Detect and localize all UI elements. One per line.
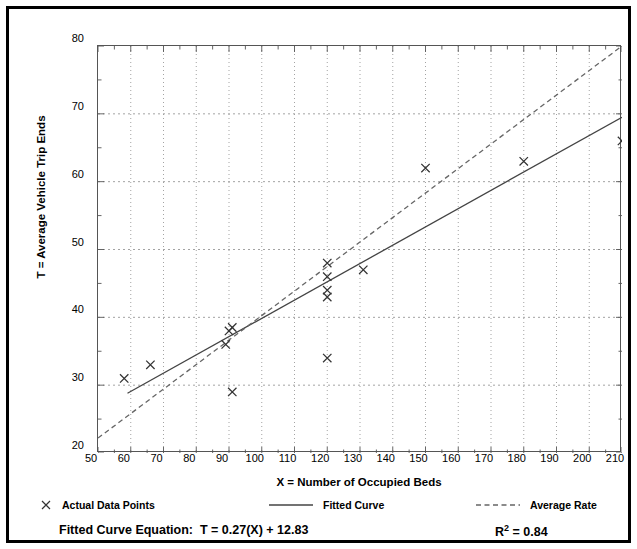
data-point-marker — [359, 266, 367, 274]
y-tick-label: 50 — [44, 237, 84, 248]
x-marker-icon — [39, 498, 53, 512]
data-point-marker — [323, 286, 331, 294]
legend-label-actual-data-points: Actual Data Points — [62, 499, 155, 511]
data-point-marker — [228, 388, 236, 396]
data-point-marker — [120, 374, 128, 382]
legend-item-average-rate: Average Rate — [475, 495, 597, 515]
chart-footer: Fitted Curve Equation: T = 0.27(X) + 12.… — [23, 523, 631, 547]
chart-screenshot: Plot T = Average Vehicle Trip Ends 20304… — [0, 0, 637, 549]
legend-item-actual-data-points: Actual Data Points — [39, 495, 155, 515]
data-point-marker — [228, 323, 236, 331]
y-tick-label: 20 — [44, 440, 84, 451]
legend-label-average-rate: Average Rate — [530, 499, 597, 511]
y-tick-label: 30 — [44, 372, 84, 383]
r-squared-number: = 0.84 — [513, 525, 548, 539]
plot-canvas — [98, 46, 622, 453]
equation-label: Fitted Curve Equation: — [59, 523, 193, 537]
x-axis-title: X = Number of Occupied Beds — [97, 476, 621, 488]
y-tick-label: 80 — [44, 33, 84, 44]
data-point-marker — [421, 164, 429, 172]
trend-lines — [98, 46, 622, 438]
grid-lines — [98, 46, 622, 453]
cut-off-title-fragment: Plot — [0, 0, 637, 5]
dashed-line-icon — [475, 498, 521, 512]
equation-value: T = 0.27(X) + 12.83 — [200, 523, 308, 537]
average-rate-line — [98, 46, 622, 438]
cut-off-title-text: Plot — [96, 0, 121, 3]
data-points — [120, 137, 622, 396]
plot-area — [97, 45, 621, 452]
data-point-marker — [146, 361, 154, 369]
figure-border: T = Average Vehicle Trip Ends 2030405060… — [6, 6, 631, 543]
y-tick-label: 70 — [44, 101, 84, 112]
chart-legend: Actual Data Points Fitted Curve Average … — [23, 495, 631, 517]
data-point-marker — [323, 272, 331, 280]
data-point-marker — [618, 137, 622, 145]
legend-label-fitted-curve: Fitted Curve — [323, 499, 384, 511]
r-squared-exponent: 2 — [504, 523, 509, 533]
y-tick-label: 40 — [44, 304, 84, 315]
fitted-curve-line — [127, 117, 622, 393]
x-tick-label: 210 — [595, 453, 635, 464]
fitted-curve-equation: Fitted Curve Equation: T = 0.27(X) + 12.… — [59, 523, 308, 537]
legend-item-fitted-curve: Fitted Curve — [268, 495, 384, 515]
data-point-marker — [323, 354, 331, 362]
r-squared-label: R — [495, 525, 504, 539]
solid-line-icon — [268, 498, 314, 512]
y-axis-title: T = Average Vehicle Trip Ends — [35, 87, 47, 307]
r-squared-value: R2 = 0.84 — [495, 523, 548, 539]
y-tick-label: 60 — [44, 169, 84, 180]
